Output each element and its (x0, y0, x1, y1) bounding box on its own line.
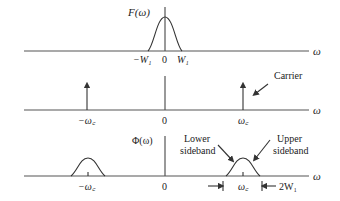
panel-carrier: Carrier ω −ω꜀ 0 ω꜀ (24, 70, 321, 126)
tick-label-neg-wc: −ω꜀ (78, 181, 96, 192)
x-axis-label: ω (313, 104, 321, 116)
panel-baseband: F(ω) ω −W₁ 0 W₁ (24, 6, 321, 65)
x-axis-label: ω (313, 170, 321, 182)
y-axis-label: F(ω) (127, 6, 150, 19)
upper-sideband-label-line2: sideband (273, 145, 309, 156)
lower-sideband-label-line2: sideband (180, 145, 216, 156)
am-spectrum-diagram: F(ω) ω −W₁ 0 W₁ Carrier ω −ω꜀ 0 ω꜀ Φ(ω) … (0, 0, 340, 201)
carrier-pointer-arrow (255, 84, 268, 94)
bandwidth-label: 2W₁ (279, 181, 297, 192)
tick-label-zero: 0 (162, 54, 167, 65)
x-axis-label: ω (313, 45, 321, 57)
upper-sideband-arrow (255, 140, 270, 159)
lower-sideband-arrow (218, 145, 232, 160)
tick-label-wc: ω꜀ (238, 181, 249, 192)
carrier-label: Carrier (274, 70, 303, 81)
tick-label-zero: 0 (162, 115, 167, 126)
lower-sideband-label-line1: Lower (184, 133, 211, 144)
panel-modulated: Φ(ω) Lower sideband Upper sideband ω −ω꜀… (24, 133, 321, 192)
tick-label-neg-wc: −ω꜀ (78, 115, 96, 126)
y-axis-label: Φ(ω) (132, 135, 153, 147)
tick-label-neg-w1: −W₁ (133, 54, 152, 65)
tick-label-wc: ω꜀ (238, 115, 249, 126)
upper-sideband-label-line1: Upper (277, 133, 303, 144)
tick-label-zero: 0 (162, 181, 167, 192)
tick-label-w1: W₁ (177, 54, 189, 65)
